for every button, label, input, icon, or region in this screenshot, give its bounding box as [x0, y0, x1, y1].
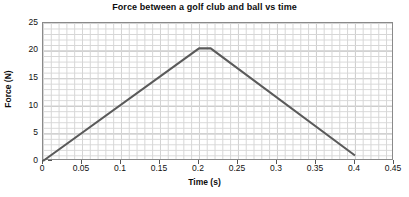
x-tick-label-0.45: 0.45	[373, 163, 409, 173]
x-tick-label-0.25: 0.25	[217, 163, 257, 173]
x-tick-label-0.35: 0.35	[295, 163, 335, 173]
x-tick-label-0.05: 0.05	[61, 163, 101, 173]
x-tick-label-0.3: 0.3	[256, 163, 296, 173]
x-tick-label-0.1: 0.1	[100, 163, 140, 173]
x-tick-label-0.15: 0.15	[139, 163, 179, 173]
x-tick-label-0.2: 0.2	[178, 163, 218, 173]
chart-container: Force between a golf club and ball vs ti…	[0, 0, 409, 197]
x-tick-label-0.4: 0.4	[334, 163, 374, 173]
x-tick-label-0: 0	[22, 163, 62, 173]
x-axis-label: Time (s)	[0, 177, 409, 187]
x-axis-ticks: 0 0.05 0.1 0.15 0.2 0.25 0.3 0.35 0.4 0.…	[0, 0, 409, 197]
